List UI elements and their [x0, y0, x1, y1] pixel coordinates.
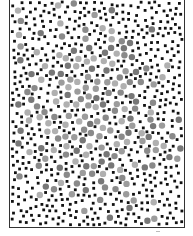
black-dot	[97, 65, 100, 68]
black-dot	[141, 208, 144, 211]
grey-dot	[126, 205, 132, 211]
black-dot	[78, 25, 81, 28]
black-dot	[118, 32, 121, 35]
black-dot	[144, 9, 147, 12]
black-dot	[59, 144, 62, 147]
grey-dot	[121, 52, 127, 58]
black-dot	[157, 48, 160, 51]
black-dot	[58, 150, 61, 153]
black-dot	[52, 50, 55, 53]
black-dot	[76, 109, 79, 112]
black-dot	[74, 10, 77, 13]
black-dot	[132, 193, 135, 196]
black-dot	[98, 223, 101, 226]
black-dot	[59, 91, 62, 94]
grey-dot	[100, 101, 106, 107]
black-dot	[52, 218, 55, 221]
black-dot	[138, 94, 141, 97]
black-dot	[177, 44, 180, 47]
black-dot	[59, 188, 62, 191]
black-dot	[87, 11, 90, 14]
black-dot	[104, 192, 107, 195]
black-dot	[143, 96, 146, 99]
black-dot	[66, 198, 69, 201]
black-dot	[31, 93, 34, 96]
black-dot	[42, 25, 45, 28]
grey-dot	[42, 156, 48, 162]
black-dot	[29, 1, 32, 4]
black-dot	[17, 94, 20, 97]
black-dot	[154, 95, 157, 98]
black-dot	[38, 96, 41, 99]
black-dot	[172, 217, 175, 220]
black-dot	[161, 57, 164, 60]
black-dot	[142, 184, 145, 187]
grey-dot	[76, 118, 82, 124]
black-dot	[133, 183, 136, 186]
black-dot	[171, 17, 174, 20]
grey-dot	[52, 128, 58, 134]
grey-dot	[71, 48, 77, 54]
black-dot	[25, 15, 28, 18]
black-dot	[35, 63, 38, 66]
black-dot	[139, 120, 142, 123]
black-dot	[60, 193, 63, 196]
black-dot	[12, 120, 15, 123]
grey-dot	[114, 141, 120, 147]
black-dot	[140, 222, 143, 225]
black-dot	[47, 199, 50, 202]
grey-dot	[94, 118, 100, 124]
grey-dot	[174, 156, 180, 162]
black-dot	[151, 17, 154, 20]
grey-dot	[51, 114, 57, 120]
black-dot	[90, 151, 93, 154]
grey-dot	[51, 186, 57, 192]
grey-dot	[109, 28, 115, 34]
grey-dot	[111, 153, 117, 159]
black-dot	[69, 223, 72, 226]
black-dot	[161, 215, 164, 218]
black-dot	[31, 54, 34, 57]
black-dot	[180, 98, 183, 101]
black-dot	[120, 65, 123, 68]
black-dot	[28, 63, 31, 66]
black-dot	[34, 143, 37, 146]
black-dot	[151, 131, 154, 134]
black-dot	[74, 216, 77, 219]
grey-dot	[37, 192, 43, 198]
black-dot	[175, 7, 178, 10]
black-dot	[114, 221, 117, 224]
black-dot	[137, 136, 140, 139]
black-dot	[179, 13, 182, 16]
black-dot	[144, 90, 147, 93]
black-dot	[155, 11, 158, 14]
black-dot	[137, 6, 140, 9]
black-dot	[137, 24, 140, 27]
black-dot	[14, 171, 17, 174]
black-dot	[69, 214, 72, 217]
black-dot	[95, 140, 98, 143]
black-dot	[63, 42, 66, 45]
grey-dot	[124, 139, 130, 145]
black-dot	[58, 16, 61, 19]
black-dot	[84, 177, 87, 180]
black-dot	[81, 64, 84, 67]
grey-dot	[57, 20, 63, 26]
grey-dot	[63, 151, 69, 157]
black-dot	[55, 28, 58, 31]
grey-dot	[123, 191, 129, 197]
black-dot	[41, 203, 44, 206]
grey-dot	[74, 79, 80, 85]
grey-dot	[31, 85, 37, 91]
grey-dot	[109, 36, 115, 42]
grey-dot	[159, 74, 165, 80]
black-dot	[68, 53, 71, 56]
grey-dot	[127, 79, 133, 85]
grey-dot	[80, 137, 86, 143]
black-dot	[90, 208, 93, 211]
grey-dot	[82, 36, 88, 42]
black-dot	[157, 69, 160, 72]
grey-dot	[153, 147, 159, 153]
black-dot	[166, 132, 169, 135]
black-dot	[93, 1, 96, 4]
